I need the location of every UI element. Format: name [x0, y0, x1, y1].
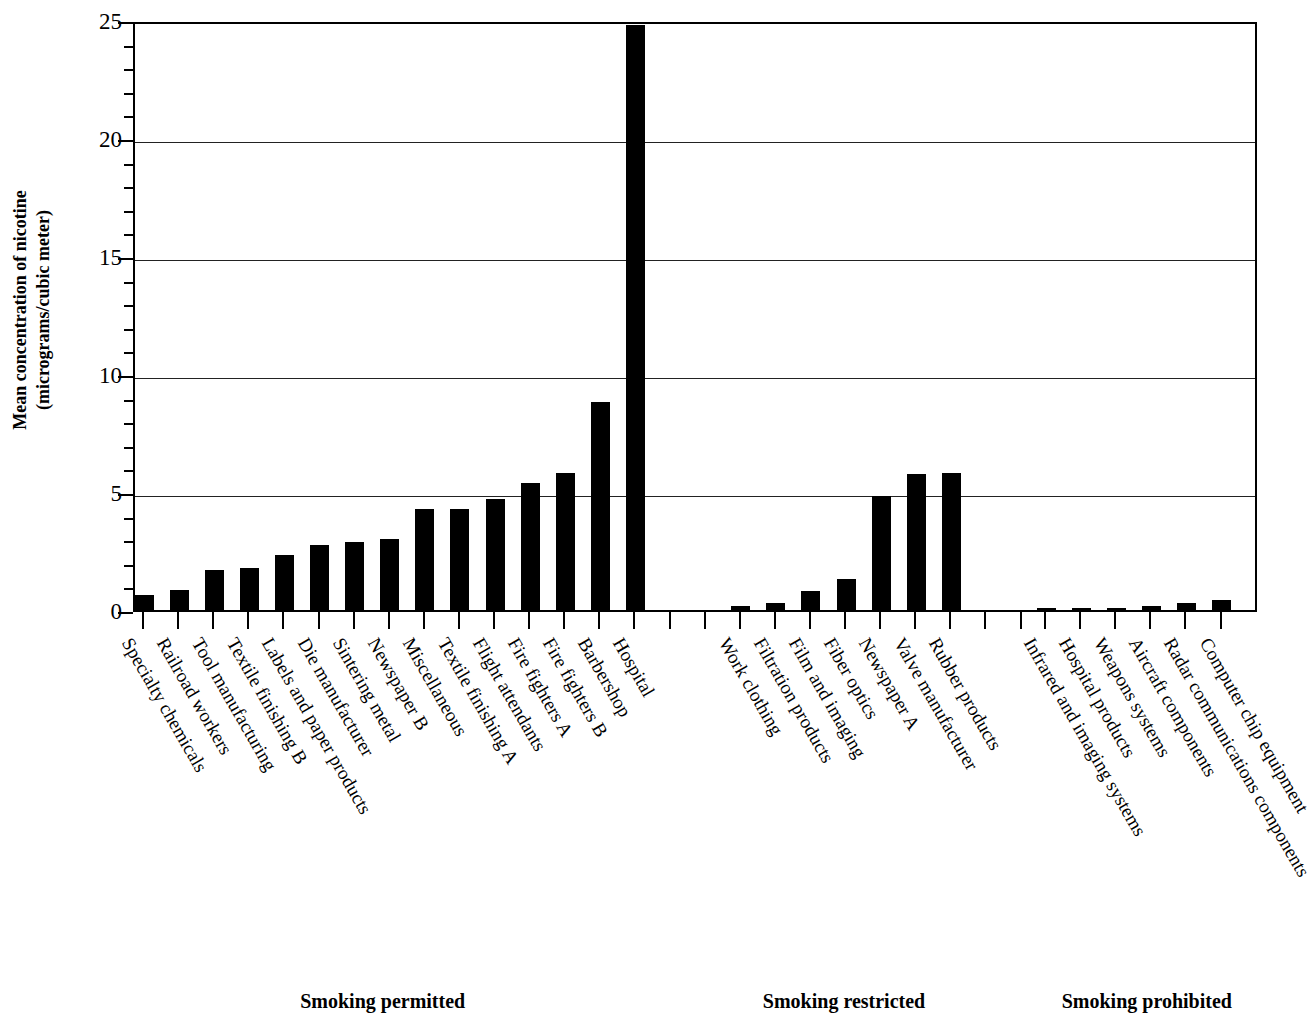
bar [1177, 603, 1196, 610]
y-axis-title-line-1: Mean concentration of nicotine [9, 190, 32, 429]
x-tick [669, 612, 671, 629]
y-tick-14 [124, 282, 133, 284]
y-tick-13 [124, 305, 133, 307]
x-tick [1149, 612, 1151, 629]
bar [591, 402, 610, 610]
x-tick [318, 612, 320, 629]
bar [1212, 600, 1231, 610]
bar [521, 483, 540, 610]
x-tick [914, 612, 916, 629]
group-caption-smoking-restricted: Smoking restricted [763, 990, 925, 1013]
y-tick-8 [124, 423, 133, 425]
y-tick-label-5: 5 [62, 481, 122, 507]
x-tick [633, 612, 635, 629]
x-tick [1184, 612, 1186, 629]
x-tick [844, 612, 846, 629]
y-tick-24 [124, 46, 133, 48]
y-tick-7 [124, 447, 133, 449]
bar [310, 545, 329, 610]
y-tick-label-20: 20 [62, 127, 122, 153]
x-tick [353, 612, 355, 629]
x-tick [1114, 612, 1116, 629]
y-tick-11 [124, 352, 133, 354]
y-tick-16 [124, 234, 133, 236]
bar [872, 496, 891, 610]
bar [170, 590, 189, 610]
x-tick [423, 612, 425, 629]
y-tick-label-10: 10 [62, 363, 122, 389]
y-tick-17 [124, 211, 133, 213]
bar [1107, 608, 1126, 611]
bar [942, 473, 961, 610]
gridline-20 [135, 142, 1255, 143]
y-tick-label-15: 15 [62, 245, 122, 271]
x-tick [739, 612, 741, 629]
x-tick [1044, 612, 1046, 629]
y-tick-1 [124, 588, 133, 590]
y-tick-23 [124, 69, 133, 71]
x-tick [809, 612, 811, 629]
bar [486, 499, 505, 610]
bar [1037, 608, 1056, 611]
bar [801, 591, 820, 610]
x-tick [563, 612, 565, 629]
plot-area [133, 22, 1257, 612]
y-tick-22 [124, 93, 133, 95]
bar [240, 568, 259, 610]
x-tick [598, 612, 600, 629]
x-tick [879, 612, 881, 629]
y-tick-label-25: 25 [62, 9, 122, 35]
x-tick [247, 612, 249, 629]
y-tick-12 [124, 329, 133, 331]
x-tick [282, 612, 284, 629]
x-tick [212, 612, 214, 629]
bar [380, 539, 399, 610]
bar [837, 579, 856, 610]
y-tick-3 [124, 541, 133, 543]
y-tick-21 [124, 116, 133, 118]
y-tick-2 [124, 565, 133, 567]
bar [135, 595, 154, 610]
group-caption-smoking-permitted: Smoking permitted [300, 990, 465, 1013]
group-caption-smoking-prohibited: Smoking prohibited [1062, 990, 1232, 1013]
gridline-5 [135, 496, 1255, 497]
bar [907, 474, 926, 610]
x-tick [458, 612, 460, 629]
x-tick [984, 612, 986, 629]
y-tick-label-0: 0 [62, 599, 122, 625]
bar [205, 570, 224, 610]
x-tick [774, 612, 776, 629]
bar [450, 509, 469, 610]
bar [1142, 606, 1161, 610]
x-tick [142, 612, 144, 629]
y-tick-4 [124, 518, 133, 520]
x-tick [1079, 612, 1081, 629]
bar [415, 509, 434, 610]
y-tick-19 [124, 164, 133, 166]
x-tick [528, 612, 530, 629]
bar [626, 25, 645, 610]
x-tick [949, 612, 951, 629]
bar [1072, 608, 1091, 611]
bar [731, 606, 750, 610]
bar [556, 473, 575, 610]
y-tick-18 [124, 187, 133, 189]
x-tick [1020, 612, 1022, 629]
bar [275, 555, 294, 610]
gridline-10 [135, 378, 1255, 379]
x-tick [177, 612, 179, 629]
bar [345, 542, 364, 610]
x-tick [493, 612, 495, 629]
y-tick-9 [124, 400, 133, 402]
x-tick [1220, 612, 1222, 629]
y-axis-title-line-2: (micrograms/cubic meter) [32, 190, 55, 429]
bar [766, 603, 785, 610]
y-tick-6 [124, 470, 133, 472]
x-tick [704, 612, 706, 629]
gridline-15 [135, 260, 1255, 261]
x-tick [388, 612, 390, 629]
y-axis-title: Mean concentration of nicotine (microgra… [0, 0, 64, 620]
